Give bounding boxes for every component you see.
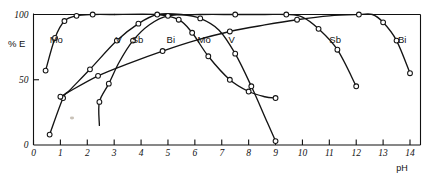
series-label-bi: Bi: [398, 34, 406, 45]
data-point-marker: [62, 19, 67, 24]
data-point-marker: [273, 96, 278, 101]
data-point-marker: [206, 54, 211, 59]
x-tick-label: 7: [219, 148, 225, 158]
series-curve-v: [50, 14, 276, 141]
series-label-mo: Mo: [198, 34, 211, 45]
series-label-bi: Bi: [167, 34, 175, 45]
x-tick-label: 3: [111, 148, 117, 158]
y-tick-label: 50: [19, 75, 29, 85]
chart-plot-area: 01234567891011121314050100 MoVSbBiMoVSbB…: [0, 0, 435, 183]
x-tick-label: 0: [31, 148, 36, 158]
series-label-mo: Mo: [50, 34, 63, 45]
data-point-marker: [227, 29, 232, 34]
x-tick-label: 8: [246, 148, 251, 158]
x-tick-label: 5: [166, 148, 171, 158]
x-tick-label: 4: [139, 148, 144, 158]
data-point-marker: [381, 20, 386, 25]
chart-ticks: [34, 80, 411, 145]
x-tick-label: 14: [405, 148, 415, 158]
data-point-marker: [190, 30, 195, 35]
data-point-marker: [284, 12, 289, 17]
chart-figure: 01234567891011121314050100 MoVSbBiMoVSbB…: [0, 0, 435, 183]
data-point-marker: [357, 12, 362, 17]
x-tick-label: 13: [378, 148, 388, 158]
data-point-marker: [155, 12, 160, 17]
data-point-marker: [74, 13, 79, 18]
data-point-marker: [176, 17, 181, 22]
x-tick-label: 1: [58, 148, 63, 158]
data-point-marker: [136, 21, 141, 26]
series-label-v: V: [116, 34, 123, 45]
data-point-marker: [198, 16, 203, 21]
data-point-marker: [47, 132, 52, 137]
paper-speck: [70, 117, 74, 120]
data-point-marker: [408, 71, 413, 76]
data-point-marker: [295, 17, 300, 22]
series-label-sb: Sb: [329, 34, 341, 45]
data-point-marker: [160, 49, 165, 54]
data-point-marker: [90, 12, 95, 17]
data-point-marker: [106, 81, 111, 86]
data-point-marker: [249, 84, 254, 89]
data-point-marker: [246, 89, 251, 94]
data-point-marker: [96, 73, 101, 78]
data-point-marker: [233, 12, 238, 17]
data-point-marker: [233, 51, 238, 56]
data-point-marker: [97, 100, 102, 105]
y-tick-label: 0: [24, 140, 29, 150]
y-tick-label: 100: [14, 10, 29, 20]
x-axis-title: pH: [396, 163, 408, 173]
data-point-marker: [43, 68, 48, 73]
data-point-marker: [58, 94, 63, 99]
x-tick-label: 12: [351, 148, 361, 158]
series-label-v: V: [228, 34, 235, 45]
chart-data-markers: [43, 12, 412, 143]
data-point-marker: [335, 47, 340, 52]
series-label-sb: Sb: [132, 34, 144, 45]
data-point-marker: [166, 13, 171, 18]
y-axis-title: % E: [8, 38, 25, 49]
data-point-marker: [273, 139, 278, 144]
x-tick-label: 10: [298, 148, 308, 158]
data-point-marker: [316, 26, 321, 31]
data-point-marker: [88, 67, 93, 72]
x-tick-label: 6: [192, 148, 197, 158]
data-point-marker: [354, 84, 359, 89]
data-point-marker: [227, 77, 232, 82]
x-tick-label: 9: [273, 148, 278, 158]
chart-series-labels: MoVSbBiMoVSbBi: [50, 34, 407, 45]
x-tick-label: 11: [325, 148, 334, 158]
x-tick-label: 2: [85, 148, 90, 158]
